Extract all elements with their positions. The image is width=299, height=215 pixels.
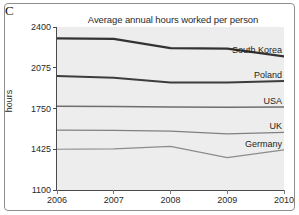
y-axis-label: hours bbox=[4, 81, 14, 121]
x-tick: 2006 bbox=[47, 190, 67, 205]
x-tick: 2009 bbox=[217, 190, 237, 205]
x-tick: 2007 bbox=[104, 190, 124, 205]
x-tick-mark bbox=[227, 190, 228, 194]
series-line bbox=[57, 76, 284, 83]
series-label-germany: Germany bbox=[245, 139, 282, 149]
plot-area: 11001425175020752400 2006200720082009201… bbox=[57, 27, 284, 190]
x-tick-mark bbox=[57, 190, 58, 194]
chart-panel: C Average annual hours worked per person… bbox=[0, 0, 299, 215]
series-label-poland: Poland bbox=[254, 70, 282, 80]
y-tick: 2075 bbox=[31, 63, 57, 73]
series-label-uk: UK bbox=[269, 121, 282, 131]
x-tick-mark bbox=[113, 190, 114, 194]
series-line bbox=[57, 130, 284, 134]
y-tick: 1425 bbox=[31, 144, 57, 154]
y-tick: 1750 bbox=[31, 104, 57, 114]
x-tick-mark bbox=[284, 190, 285, 194]
series-label-usa: USA bbox=[263, 96, 282, 106]
x-tick: 2008 bbox=[160, 190, 180, 205]
x-tick-label: 2008 bbox=[160, 195, 180, 205]
x-tick-label: 2010 bbox=[274, 195, 294, 205]
x-tick-label: 2007 bbox=[104, 195, 124, 205]
x-tick: 2010 bbox=[274, 190, 294, 205]
x-tick-mark bbox=[170, 190, 171, 194]
series-label-south-korea: South Korea bbox=[232, 45, 282, 55]
panel-letter: C bbox=[5, 4, 14, 17]
chart-title: Average annual hours worked per person bbox=[62, 14, 284, 25]
y-tick: 2400 bbox=[31, 22, 57, 32]
x-tick-label: 2006 bbox=[47, 195, 67, 205]
y-tick-label: 1750 bbox=[31, 104, 51, 114]
y-tick-label: 2075 bbox=[31, 63, 51, 73]
series-line bbox=[57, 106, 284, 107]
y-tick-label: 1425 bbox=[31, 144, 51, 154]
y-tick-label: 2400 bbox=[31, 22, 51, 32]
x-tick-label: 2009 bbox=[217, 195, 237, 205]
